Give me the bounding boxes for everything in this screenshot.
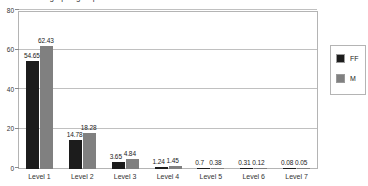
- bar-value-ff-1: 54.65: [24, 53, 40, 60]
- bar-value-ff-5: 0.7: [195, 160, 204, 167]
- bar-value-m-4: 1.45: [167, 158, 179, 165]
- legend-swatch-m: [336, 74, 345, 83]
- chart-title: Percentage per group: [16, 0, 97, 2]
- bar-m-1[interactable]: [40, 46, 53, 169]
- x-axis-label-4: Level 4: [147, 173, 190, 180]
- x-axis-label-7: Level 7: [275, 173, 318, 180]
- bar-value-m-5: 0.38: [209, 160, 221, 167]
- bar-m-7[interactable]: [297, 168, 310, 169]
- bar-m-3[interactable]: [126, 159, 139, 169]
- y-axis-label-60: 60: [0, 47, 14, 54]
- bar-ff-6[interactable]: [240, 168, 253, 169]
- x-axis-label-1: Level 1: [18, 173, 61, 180]
- bar-m-5[interactable]: [211, 168, 224, 169]
- x-axis-label-5: Level 5: [189, 173, 232, 180]
- bar-ff-7[interactable]: [283, 168, 296, 169]
- bar-group: 54.6562.43: [26, 11, 53, 169]
- bar-value-m-1: 62.43: [38, 38, 54, 45]
- legend-item-m[interactable]: M: [336, 74, 356, 83]
- bar-ff-1[interactable]: [26, 61, 39, 169]
- bar-value-m-7: 0.05: [295, 160, 307, 167]
- x-axis: Level 1Level 2Level 3Level 4Level 5Level…: [18, 173, 318, 185]
- bar-value-ff-2: 14.78: [67, 132, 83, 139]
- bar-group: 0.080.05: [283, 11, 310, 169]
- y-axis-label-20: 20: [0, 126, 14, 133]
- gridline-80: [19, 9, 317, 10]
- bar-value-m-2: 18.28: [81, 125, 97, 132]
- bar-ff-4[interactable]: [155, 167, 168, 169]
- bar-group: 1.241.45: [155, 11, 182, 169]
- bar-group: 0.310.12: [240, 11, 267, 169]
- bar-m-2[interactable]: [83, 133, 96, 169]
- y-axis-label-80: 80: [0, 8, 14, 15]
- x-axis-label-6: Level 6: [232, 173, 275, 180]
- bar-value-ff-7: 0.08: [281, 160, 293, 167]
- bar-m-4[interactable]: [169, 166, 182, 169]
- legend: FFM: [330, 45, 366, 95]
- bar-value-ff-4: 1.24: [153, 159, 165, 166]
- bar-value-ff-6: 0.31: [238, 160, 250, 167]
- bar-ff-2[interactable]: [69, 140, 82, 169]
- x-axis-label-2: Level 2: [61, 173, 104, 180]
- bars-layer: 54.6562.4314.7818.283.654.841.241.450.70…: [18, 11, 318, 169]
- legend-swatch-ff: [336, 54, 345, 63]
- bar-group: 0.70.38: [197, 11, 224, 169]
- bar-value-ff-3: 3.65: [110, 154, 122, 161]
- x-axis-label-3: Level 3: [104, 173, 147, 180]
- y-axis-label-40: 40: [0, 87, 14, 94]
- legend-item-ff[interactable]: FF: [336, 54, 359, 63]
- bar-group: 14.7818.28: [69, 11, 96, 169]
- bar-value-m-3: 4.84: [124, 151, 136, 158]
- legend-label-ff: FF: [350, 55, 359, 62]
- bar-m-6[interactable]: [254, 168, 267, 169]
- bar-value-m-6: 0.12: [252, 160, 264, 167]
- y-tick-80: [15, 9, 19, 10]
- bar-ff-3[interactable]: [112, 162, 125, 169]
- bar-ff-5[interactable]: [197, 168, 210, 169]
- legend-label-m: M: [350, 75, 356, 82]
- chart-title-clipped: Percentage per group: [0, 0, 368, 6]
- y-axis-label-0: 0: [0, 166, 14, 173]
- bar-group: 3.654.84: [112, 11, 139, 169]
